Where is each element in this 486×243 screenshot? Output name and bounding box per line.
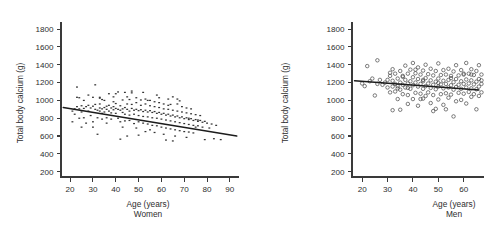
data-point — [391, 67, 395, 71]
data-point — [165, 139, 167, 140]
data-point — [437, 62, 441, 66]
y-tick-label: 200 — [40, 168, 54, 177]
data-point — [151, 112, 153, 113]
data-point — [81, 111, 83, 112]
data-point — [160, 127, 162, 128]
data-point — [144, 131, 146, 132]
data-point — [447, 96, 451, 100]
y-tick-label: 1600 — [326, 43, 345, 52]
data-point — [163, 134, 165, 135]
y-tick-label: 1200 — [326, 78, 345, 87]
x-tick-label: 20 — [358, 185, 368, 194]
data-point — [119, 139, 121, 140]
y-axis-ticks-women: 20040060080010001200140016001800 — [35, 25, 61, 177]
data-point — [158, 102, 160, 103]
data-point — [181, 111, 183, 112]
data-point — [202, 122, 204, 123]
data-point — [406, 102, 410, 106]
data-point — [208, 127, 210, 128]
data-point — [97, 134, 99, 135]
data-point — [391, 79, 395, 83]
data-point — [101, 119, 103, 120]
x-tick-label: 40 — [408, 185, 418, 194]
data-point — [378, 78, 382, 82]
data-point — [459, 68, 463, 72]
data-point — [99, 110, 101, 111]
data-point — [447, 67, 451, 71]
data-point — [414, 71, 418, 75]
data-point — [172, 96, 174, 97]
data-point — [429, 79, 433, 83]
x-tick-label: 20 — [66, 185, 76, 194]
data-point — [110, 107, 112, 108]
data-point — [122, 127, 124, 128]
x-tick-label: 50 — [434, 185, 444, 194]
data-point — [106, 123, 108, 124]
data-point — [409, 79, 413, 83]
data-point — [83, 117, 85, 118]
y-tick-label: 1000 — [326, 96, 345, 105]
data-point — [154, 106, 156, 107]
data-point — [142, 111, 144, 112]
data-point — [197, 125, 199, 126]
data-point — [419, 73, 423, 77]
data-point — [167, 109, 169, 110]
data-point — [424, 94, 428, 98]
data-point — [454, 63, 458, 67]
data-point — [186, 137, 188, 138]
x-tick-label: 30 — [88, 185, 98, 194]
x-tick-label: 40 — [111, 185, 121, 194]
data-point — [115, 93, 117, 94]
data-point — [195, 114, 197, 115]
data-point — [480, 73, 484, 77]
data-point — [188, 124, 190, 125]
data-point — [192, 132, 194, 133]
data-point — [188, 131, 190, 132]
data-point — [426, 82, 430, 86]
data-point — [167, 105, 169, 106]
axis-lines-men — [352, 22, 484, 177]
data-point — [437, 77, 441, 81]
data-point — [393, 72, 397, 76]
data-point — [108, 93, 110, 94]
data-point — [99, 107, 101, 108]
data-point — [190, 108, 192, 109]
data-point — [144, 103, 146, 104]
data-point — [158, 112, 160, 113]
data-point — [170, 128, 172, 129]
data-point — [113, 96, 115, 97]
data-point — [160, 114, 162, 115]
data-point — [414, 68, 418, 72]
regression-line-women — [63, 108, 236, 137]
data-point — [147, 111, 149, 112]
data-point — [115, 108, 117, 109]
data-point — [131, 90, 133, 91]
data-point — [163, 108, 165, 109]
data-point — [71, 110, 73, 111]
data-point — [87, 105, 89, 106]
data-point — [457, 91, 461, 95]
data-point — [94, 109, 96, 110]
data-point — [167, 114, 169, 115]
data-point — [190, 113, 192, 114]
data-point — [373, 94, 377, 98]
data-point — [97, 110, 99, 111]
data-point — [119, 121, 121, 122]
data-point — [140, 99, 142, 100]
data-point — [176, 110, 178, 111]
data-point — [426, 72, 430, 76]
data-point — [371, 77, 375, 81]
data-point — [92, 106, 94, 107]
data-point — [92, 97, 94, 98]
data-point — [215, 125, 217, 126]
data-point — [83, 108, 85, 109]
data-point — [167, 98, 169, 99]
data-point — [411, 97, 415, 101]
data-point — [154, 111, 156, 112]
data-point — [192, 125, 194, 126]
y-tick-label: 1800 — [326, 25, 345, 34]
data-point — [90, 115, 92, 116]
data-point — [442, 103, 446, 107]
data-point — [103, 107, 105, 108]
data-point — [409, 68, 413, 72]
